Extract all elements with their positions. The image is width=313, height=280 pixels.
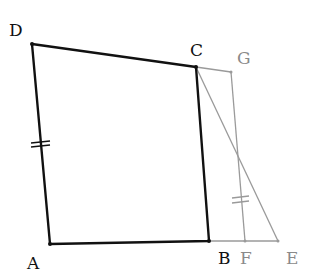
equal-mark-GF-1: [232, 196, 249, 198]
label-G: G: [237, 50, 251, 67]
quadrilateral-outline: [32, 44, 209, 244]
equal-mark-GF-2: [232, 201, 249, 203]
label-F: F: [240, 250, 252, 267]
label-A: A: [27, 255, 39, 272]
geometry-diagram: D C G A B F E: [0, 0, 313, 280]
auxiliary-lines: [196, 67, 278, 241]
diagram-svg: [0, 0, 313, 280]
label-D: D: [9, 22, 23, 39]
label-B: B: [218, 250, 231, 267]
label-E: E: [286, 250, 298, 267]
segment-CG: [196, 67, 231, 72]
label-C: C: [190, 42, 203, 59]
segment-CE: [196, 67, 278, 241]
vertex-dots: [30, 42, 211, 246]
quadrilateral-ABCD: [32, 44, 209, 244]
aux-dots: [230, 71, 280, 243]
